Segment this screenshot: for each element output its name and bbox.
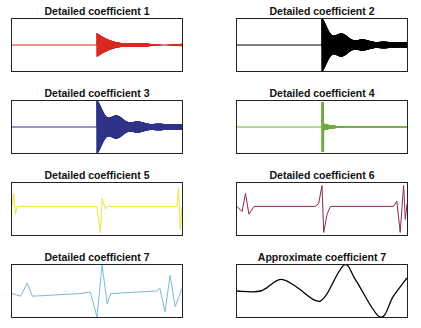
chart-title: Detailed coefficient 4: [236, 87, 408, 99]
chart-title: Approximate coefficient 7: [236, 251, 408, 263]
plot-area: [236, 264, 408, 318]
panel-detailed-coefficient-3: Detailed coefficient 3: [11, 83, 183, 165]
signal-line: [237, 265, 407, 317]
signal-plot: [12, 183, 182, 235]
signal-plot: [12, 265, 182, 317]
plot-area: [11, 18, 183, 72]
plot-area: [11, 182, 183, 236]
chart-title: Detailed coefficient 2: [236, 5, 408, 17]
plot-area: [236, 182, 408, 236]
plot-area: [11, 264, 183, 318]
signal-line: [12, 265, 182, 317]
signal-line: [237, 186, 407, 233]
signal-line: [237, 19, 407, 71]
plot-area: [11, 100, 183, 154]
chart-title: Detailed coefficient 7: [11, 251, 183, 263]
signal-line: [12, 33, 182, 56]
panel-detailed-coefficient-2: Detailed coefficient 2: [236, 1, 408, 83]
chart-title: Detailed coefficient 5: [11, 169, 183, 181]
plot-area: [236, 100, 408, 154]
panel-detailed-coefficient-6: Detailed coefficient 6: [236, 165, 408, 247]
signal-line: [12, 188, 182, 232]
panel-detailed-coefficient-1: Detailed coefficient 1: [11, 1, 183, 83]
panel-detailed-coefficient-7: Detailed coefficient 7: [11, 247, 183, 328]
panel-approximate-coefficient-7: Approximate coefficient 7: [236, 247, 408, 328]
signal-line: [12, 101, 182, 153]
chart-title: Detailed coefficient 6: [236, 169, 408, 181]
chart-title: Detailed coefficient 1: [11, 5, 183, 17]
panel-detailed-coefficient-4: Detailed coefficient 4: [236, 83, 408, 165]
signal-plot: [237, 101, 407, 153]
signal-plot: [237, 19, 407, 71]
signal-line: [237, 102, 407, 151]
panel-detailed-coefficient-5: Detailed coefficient 5: [11, 165, 183, 247]
signal-plot: [12, 101, 182, 153]
signal-plot: [12, 19, 182, 71]
signal-plot: [237, 183, 407, 235]
chart-title: Detailed coefficient 3: [11, 87, 183, 99]
signal-plot: [237, 265, 407, 317]
plot-area: [236, 18, 408, 72]
